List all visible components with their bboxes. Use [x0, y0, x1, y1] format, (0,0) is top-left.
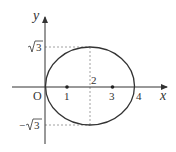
y-tick-label-neg-sqrt3: − 3 — [19, 119, 42, 131]
origin-label: O — [33, 89, 42, 103]
svg-text:3: 3 — [34, 119, 40, 131]
x-tick-label-3: 3 — [109, 90, 115, 102]
x-tick-label-2: 2 — [91, 74, 97, 86]
x-axis-label: x — [159, 88, 167, 103]
y-axis-label: y — [31, 8, 40, 23]
x-tick-label-1: 1 — [64, 90, 70, 102]
point-x1 — [65, 85, 69, 89]
x-tick-label-4: 4 — [136, 90, 142, 102]
ellipse-curve — [46, 47, 135, 125]
y-tick-label-sqrt3: 3 — [28, 41, 43, 53]
svg-text:3: 3 — [36, 41, 42, 53]
point-x3 — [111, 85, 115, 89]
ellipse-diagram: y x O 1 2 3 4 3 − 3 — [0, 0, 176, 152]
svg-text:−: − — [19, 119, 25, 131]
